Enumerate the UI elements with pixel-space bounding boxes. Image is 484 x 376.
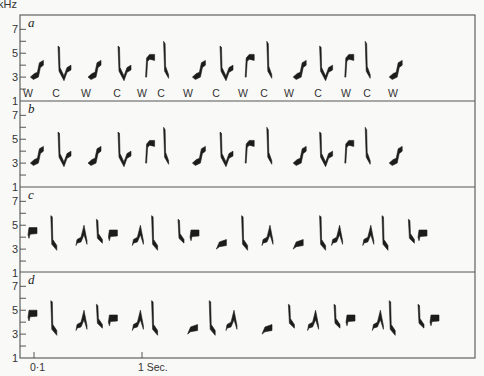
syllable-rise (216, 240, 226, 250)
syllable-cf (164, 41, 169, 78)
syllable-drops (178, 219, 184, 243)
syllable-w (192, 60, 205, 79)
syllable-wf (146, 140, 155, 163)
syllable-drop (152, 216, 158, 251)
syllable-w (30, 146, 43, 165)
x-axis: 0·11 Sec. (30, 352, 168, 373)
note-label: C (212, 87, 220, 99)
syllable-drop (51, 216, 57, 251)
panel-a: aWCWCWCWCWCWCWCW (23, 15, 402, 99)
spectrogram-figure: aWCWCWCWCWCWCWCWbcd 1357135713571357 0·1… (0, 0, 484, 376)
x-tick-label: 0·1 (30, 361, 45, 373)
syllable-rise (293, 240, 303, 250)
syllable-peak (76, 225, 87, 245)
syllable-c (320, 46, 333, 81)
syllable-cf (164, 127, 169, 164)
syllable-flat (418, 230, 427, 241)
syllable-peak (332, 225, 343, 245)
syllable-cf (365, 41, 370, 78)
syllable-flat (190, 230, 199, 241)
panel-letter: d (28, 272, 35, 287)
y-tick-label: 7 (12, 109, 18, 121)
syllable-peak (308, 310, 319, 330)
syllable-drop (209, 301, 215, 336)
y-tick-label: 3 (12, 71, 18, 83)
syllable-peak (363, 225, 374, 245)
syllable-drop (152, 301, 158, 336)
note-label: W (238, 87, 248, 99)
syllable-rise (188, 325, 198, 335)
syllable-peak (372, 310, 383, 330)
note-label: C (113, 87, 121, 99)
syllable-wf (345, 54, 354, 77)
y-tick-label: 5 (12, 219, 18, 231)
syllable-c (118, 132, 131, 167)
note-label: C (52, 87, 60, 99)
syllable-flat (28, 310, 37, 321)
y-tick-label: 1 (12, 95, 18, 107)
y-tick-label: 3 (12, 328, 18, 340)
y-tick-label: 7 (12, 195, 18, 207)
syllable-c (58, 46, 71, 81)
panel-b: b (28, 101, 402, 167)
note-label: W (284, 87, 294, 99)
panel-letter: c (28, 187, 34, 202)
panel-c: c (28, 187, 427, 250)
note-label: W (388, 87, 398, 99)
syllable-flat (108, 315, 117, 326)
y-tick-label: 3 (12, 243, 18, 255)
syllable-cf (365, 127, 370, 164)
y-axis: 1357135713571357 (12, 23, 26, 364)
y-tick-label: 5 (12, 304, 18, 316)
panels: aWCWCWCWCWCWCWCWbcd (23, 15, 439, 335)
syllable-w (88, 146, 101, 165)
y-tick-label: 1 (12, 181, 18, 193)
syllable-c (220, 46, 233, 81)
y-tick-label: 7 (12, 23, 18, 35)
syllable-drop (382, 216, 388, 251)
syllable-cf (267, 127, 272, 164)
syllable-peak (132, 310, 143, 330)
syllable-w (293, 60, 306, 79)
figure-frame (20, 15, 475, 358)
syllable-drops (96, 304, 102, 328)
syllable-drops (288, 304, 294, 328)
syllable-flat (346, 315, 355, 326)
y-tick-label: 1 (12, 267, 18, 279)
syllable-wf (146, 54, 155, 77)
panel-d: d (28, 272, 439, 335)
note-label: C (314, 87, 322, 99)
y-tick-label: 3 (12, 157, 18, 169)
syllable-flat (108, 230, 117, 241)
syllable-drops (408, 219, 414, 243)
syllable-w (293, 146, 306, 165)
syllable-w (389, 146, 402, 165)
panel-letter: b (28, 101, 35, 116)
syllable-drop (51, 301, 57, 336)
syllable-rise (262, 325, 272, 335)
syllable-drops (334, 304, 340, 328)
note-label: W (81, 87, 91, 99)
syllable-wf (245, 54, 254, 77)
syllable-w (389, 60, 402, 79)
syllable-w (30, 60, 43, 79)
note-label: W (183, 87, 193, 99)
y-axis-label: kHz (0, 0, 17, 10)
note-label: C (260, 87, 268, 99)
panel-letter: a (28, 15, 35, 30)
syllable-drops (96, 219, 102, 243)
syllable-drops (418, 304, 424, 328)
syllable-flat (430, 315, 439, 326)
note-label: W (137, 87, 147, 99)
syllable-w (88, 60, 101, 79)
syllable-wf (345, 140, 354, 163)
syllable-peak (262, 225, 273, 245)
syllable-flat (28, 228, 37, 239)
syllable-drop (242, 216, 248, 251)
y-tick-label: 7 (12, 280, 18, 292)
syllable-w (192, 146, 205, 165)
note-label: C (157, 87, 165, 99)
y-tick-label: 5 (12, 133, 18, 145)
syllable-c (118, 46, 131, 81)
y-tick-label: 1 (12, 352, 18, 364)
